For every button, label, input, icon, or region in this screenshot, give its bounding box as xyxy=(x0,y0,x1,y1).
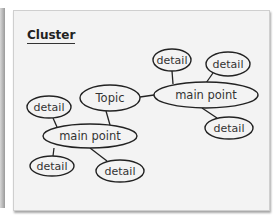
node-main2: main point xyxy=(43,124,137,148)
node-label: detail xyxy=(34,101,65,114)
node-label: detail xyxy=(157,54,188,67)
node-d1: detail xyxy=(153,49,191,71)
node-d4: detail xyxy=(27,96,71,118)
node-d5: detail xyxy=(30,156,74,176)
edge-topic-main1 xyxy=(140,95,154,97)
node-d2: detail xyxy=(206,52,250,76)
edge-main1-d1 xyxy=(172,71,173,84)
node-d6: detail xyxy=(96,160,144,182)
node-d3: detail xyxy=(205,117,253,139)
node-main1: main point xyxy=(154,82,258,108)
node-label: detail xyxy=(214,122,245,135)
node-label: main point xyxy=(175,88,237,102)
node-label: main point xyxy=(59,129,121,143)
edge-main2-d5 xyxy=(53,148,54,156)
nodes: Topicmain pointmain pointdetaildetaildet… xyxy=(27,49,258,182)
cluster-diagram: Topicmain pointmain pointdetaildetaildet… xyxy=(0,0,279,224)
edge-main1-d3 xyxy=(202,108,217,118)
edge-topic-main2 xyxy=(106,111,110,125)
edge-main2-d4 xyxy=(53,118,57,127)
node-label: detail xyxy=(37,160,68,173)
node-label: detail xyxy=(105,165,136,178)
node-label: detail xyxy=(213,58,244,71)
edge-main2-d6 xyxy=(90,148,107,161)
node-topic: Topic xyxy=(80,85,140,111)
node-label: Topic xyxy=(95,91,125,105)
